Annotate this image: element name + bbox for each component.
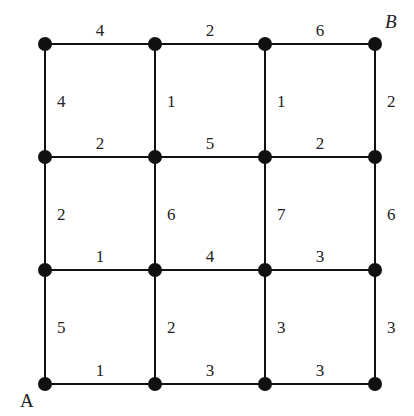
graph-node	[148, 263, 162, 277]
edge-weight-label: 1	[277, 92, 286, 111]
edge-weight-label: 2	[96, 134, 105, 153]
edge-weight-label: 3	[316, 247, 325, 266]
edge-weight-label: 5	[206, 134, 215, 153]
graph-node	[148, 150, 162, 164]
edge-weight-label: 2	[57, 205, 66, 224]
end-node-label: B	[385, 11, 397, 32]
edge-weight-label: 4	[206, 247, 215, 266]
edge-weight-label: 2	[316, 134, 325, 153]
edge-weight-label: 2	[387, 92, 396, 111]
grid-diagram: 426252143133411226765233 A B	[0, 0, 414, 416]
edge-weight-label: 6	[167, 205, 176, 224]
graph-node	[38, 37, 52, 51]
graph-node	[258, 150, 272, 164]
edge-weight-label: 6	[316, 21, 325, 40]
graph-node	[258, 377, 272, 391]
graph-node	[148, 37, 162, 51]
edge-weight-label: 4	[57, 92, 66, 111]
graph-node	[148, 377, 162, 391]
edge-weight-label: 5	[57, 318, 66, 337]
edge-weight-label: 6	[387, 205, 396, 224]
edge-weight-label: 3	[206, 361, 215, 380]
graph-node	[368, 150, 382, 164]
edge-weight-label: 3	[387, 318, 396, 337]
graph-node	[258, 37, 272, 51]
edges-layer	[45, 44, 375, 384]
edge-weight-label: 3	[316, 361, 325, 380]
edge-weight-label: 2	[206, 21, 215, 40]
graph-node	[368, 263, 382, 277]
edge-weight-label: 2	[167, 318, 176, 337]
edge-weight-label: 7	[277, 205, 286, 224]
edge-weight-label: 1	[96, 361, 105, 380]
edge-weight-label: 3	[277, 318, 286, 337]
nodes-layer	[38, 37, 382, 391]
start-node-label: A	[20, 390, 34, 411]
edge-weight-label: 1	[96, 247, 105, 266]
edge-weight-label: 1	[167, 92, 176, 111]
edge-weight-label: 4	[96, 21, 105, 40]
grid-graph-canvas: 426252143133411226765233 A B	[0, 0, 414, 416]
graph-node	[368, 377, 382, 391]
weights-layer: 426252143133411226765233	[57, 21, 396, 380]
graph-node	[38, 150, 52, 164]
graph-node	[38, 377, 52, 391]
graph-node	[368, 37, 382, 51]
graph-node	[38, 263, 52, 277]
graph-node	[258, 263, 272, 277]
